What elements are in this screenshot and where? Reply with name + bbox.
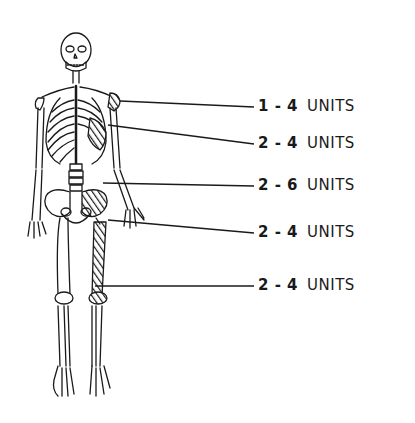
skull — [61, 33, 91, 71]
leader-line-1 — [120, 101, 254, 107]
annotation-range: 1 - 4 — [258, 97, 298, 115]
ribcage — [46, 86, 106, 166]
lumbar-spine — [69, 164, 83, 191]
annotation-unit: UNITS — [307, 97, 355, 115]
leader-lines — [95, 101, 254, 286]
skeleton-diagram: 1 - 4UNITS 2 - 4UNITS 2 - 6UNITS 2 - 4UN… — [0, 0, 415, 423]
skeleton-illustration — [0, 0, 415, 423]
annotation-label-4: 2 - 4UNITS — [258, 225, 355, 240]
annotation-range: 2 - 4 — [258, 134, 298, 152]
annotation-range: 2 - 4 — [258, 223, 298, 241]
annotation-unit: UNITS — [307, 176, 355, 194]
annotation-label-1: 1 - 4UNITS — [258, 99, 355, 114]
annotation-range: 2 - 6 — [258, 176, 298, 194]
annotation-unit: UNITS — [307, 223, 355, 241]
pelvis — [45, 190, 107, 223]
annotation-label-3: 2 - 6UNITS — [258, 178, 355, 193]
annotation-unit: UNITS — [307, 276, 355, 294]
annotation-label-5: 2 - 4UNITS — [258, 278, 355, 293]
annotation-range: 2 - 4 — [258, 276, 298, 294]
annotation-unit: UNITS — [307, 134, 355, 152]
annotation-label-2: 2 - 4UNITS — [258, 136, 355, 151]
leader-line-2 — [108, 125, 254, 144]
